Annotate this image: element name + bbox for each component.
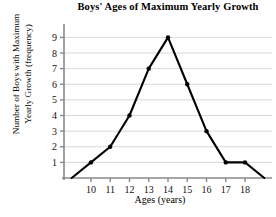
y-tick-group: 123456789 [52,32,64,168]
data-series-line [72,37,265,178]
x-tick-label: 12 [124,184,134,195]
y-tick-label: 5 [52,94,57,105]
x-tick-group: 101112131415161718 [86,178,250,195]
data-point-marker [127,113,131,117]
data-point-marker [166,35,170,39]
x-tick-label: 10 [86,184,96,195]
data-point-marker [224,160,228,164]
x-tick-label: 16 [202,184,212,195]
line-chart-plot: 123456789 101112131415161718 [0,0,276,217]
chart-screenshot: Boys' Ages of Maximum Yearly Growth Numb… [0,0,276,217]
data-point-marker [147,66,151,70]
data-point-marker [108,145,112,149]
x-tick-label: 15 [182,184,192,195]
data-point-marker [204,129,208,133]
x-tick-label: 17 [221,184,231,195]
data-point-marker [185,82,189,86]
x-tick-label: 18 [240,184,250,195]
y-tick-label: 1 [52,157,57,168]
y-tick-label: 7 [52,63,57,74]
y-tick-label: 3 [52,126,57,137]
data-point-marker [243,160,247,164]
x-tick-label: 13 [144,184,154,195]
gridlines-group [64,37,272,162]
x-tick-label: 11 [105,184,115,195]
data-point-marker [89,160,93,164]
x-tick-label: 14 [163,184,173,195]
y-tick-label: 8 [52,48,57,59]
y-tick-label: 4 [52,110,57,121]
y-tick-label: 9 [52,32,57,43]
y-tick-label: 2 [52,141,57,152]
y-tick-label: 6 [52,79,57,90]
